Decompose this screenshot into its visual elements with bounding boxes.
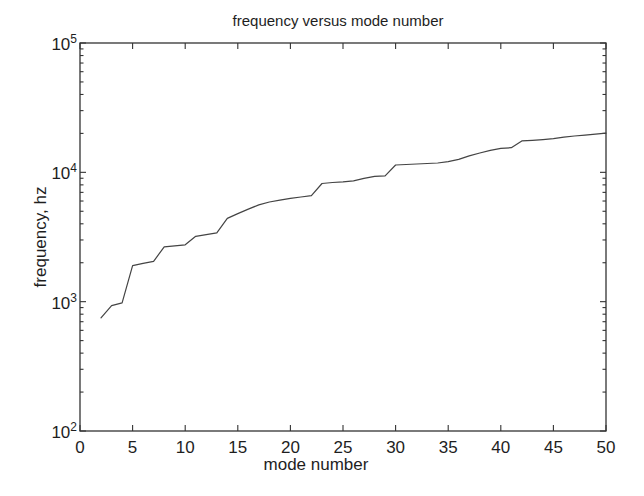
x-tick-label: 15 <box>228 438 247 457</box>
scanned-figure-page: 05101520253035404550102103104105 frequen… <box>0 0 644 496</box>
y-tick-label: 102 <box>51 420 77 442</box>
frequency-vs-mode-chart: 05101520253035404550102103104105 frequen… <box>0 0 644 496</box>
curve-layer <box>101 133 606 318</box>
y-tick-label: 105 <box>51 32 77 54</box>
x-tick-label: 50 <box>597 438 616 457</box>
y-tick-label: 103 <box>51 291 77 313</box>
x-tick-label: 35 <box>439 438 458 457</box>
x-tick-label: 5 <box>128 438 137 457</box>
x-tick-label: 40 <box>491 438 510 457</box>
x-tick-label: 10 <box>176 438 195 457</box>
y-tick-label: 104 <box>51 161 77 183</box>
x-axis-label: mode number <box>264 455 369 474</box>
x-tick-label: 0 <box>75 438 84 457</box>
x-tick-label: 45 <box>544 438 563 457</box>
frequency-curve <box>101 133 606 318</box>
chart-title: frequency versus mode number <box>233 12 444 29</box>
plot-box <box>80 43 606 431</box>
x-tick-label: 30 <box>386 438 405 457</box>
axes-layer: 05101520253035404550102103104105 <box>51 32 615 457</box>
y-axis-label: frequency, hz <box>31 187 50 288</box>
